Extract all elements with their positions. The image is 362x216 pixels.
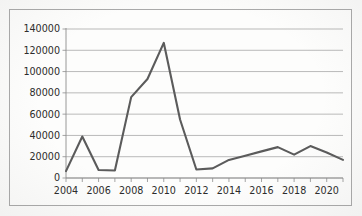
x-axis-label-2018: 2018 <box>282 185 306 196</box>
data-series-group <box>66 43 343 171</box>
y-axis-label-60000: 60000 <box>29 109 60 120</box>
x-axis-label-2006: 2006 <box>86 185 110 196</box>
chart-page: 020000400006000080000100000120000140000 … <box>0 0 362 216</box>
y-axis-label-120000: 120000 <box>23 45 60 56</box>
series-1-line <box>66 43 343 171</box>
x-axis-label-2014: 2014 <box>217 185 241 196</box>
x-axis-label-2008: 2008 <box>119 185 143 196</box>
x-tick-marks-group <box>66 178 343 182</box>
y-axis-label-100000: 100000 <box>23 66 60 77</box>
chart-plot-wrapper: 020000400006000080000100000120000140000 … <box>10 10 351 205</box>
y-axis-label-80000: 80000 <box>29 87 60 98</box>
x-axis-tick-labels: 200420062008201020122014201620182020 <box>54 185 339 196</box>
x-axis-label-2020: 2020 <box>314 185 338 196</box>
y-axis-tick-labels: 020000400006000080000100000120000140000 <box>23 23 60 183</box>
y-axis-label-40000: 40000 <box>29 130 60 141</box>
y-axis-label-20000: 20000 <box>29 151 60 162</box>
y-tick-marks-group <box>63 29 67 178</box>
gridlines-group <box>66 29 343 178</box>
chart-frame: 020000400006000080000100000120000140000 … <box>9 9 352 206</box>
line-chart: 020000400006000080000100000120000140000 … <box>10 10 351 205</box>
y-axis-label-0: 0 <box>54 172 60 183</box>
x-axis-label-2010: 2010 <box>152 185 176 196</box>
y-axis-label-140000: 140000 <box>23 23 60 34</box>
x-axis-label-2004: 2004 <box>54 185 78 196</box>
x-axis-label-2016: 2016 <box>249 185 273 196</box>
x-axis-label-2012: 2012 <box>184 185 208 196</box>
